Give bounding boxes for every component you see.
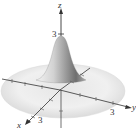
z-tick-label: 3	[52, 30, 57, 39]
z-axis-label: z	[58, 1, 62, 10]
y-tick-label: 3	[110, 108, 115, 117]
y-axis-arrow	[125, 105, 132, 109]
surface-plot	[0, 0, 136, 132]
x-tick-label: 3	[38, 116, 43, 125]
y-axis-label: y	[132, 103, 136, 112]
surface-bell	[36, 36, 86, 83]
x-axis-label: x	[17, 121, 21, 130]
